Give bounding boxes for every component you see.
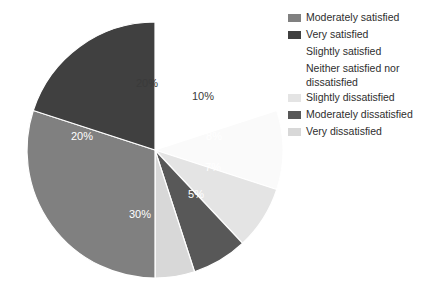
chart-legend: Moderately satisfied Very satisfied Slig… — [288, 11, 437, 142]
pie-slice-data-label: 7% — [205, 161, 221, 173]
legend-swatch-icon — [288, 111, 301, 119]
legend-item[interactable]: Slightly dissatisfied — [288, 91, 437, 106]
legend-item-label: Moderately satisfied — [306, 11, 437, 25]
legend-item-label: Neither satisfied nor dissatisfied — [306, 62, 437, 89]
pie-chart-plot-area: 20%10%8%7%5%30%20% — [0, 0, 300, 295]
legend-swatch-icon — [288, 94, 301, 102]
legend-item-label: Very dissatisfied — [306, 125, 437, 139]
pie-slice-data-label: 20% — [71, 130, 93, 142]
pie-slice-data-label: 10% — [192, 90, 214, 102]
legend-item[interactable]: Very satisfied — [288, 28, 437, 43]
legend-item[interactable]: Moderately satisfied — [288, 11, 437, 26]
pie-slice-data-label: 20% — [136, 77, 158, 89]
legend-swatch-icon — [288, 48, 301, 56]
pie-slice-data-label: 30% — [129, 208, 151, 220]
legend-item-label: Moderately dissatisfied — [306, 108, 437, 122]
legend-item-label: Slightly satisfied — [306, 45, 437, 59]
pie-slices-group — [27, 22, 283, 278]
legend-item-label: Very satisfied — [306, 28, 437, 42]
legend-item[interactable]: Neither satisfied nor dissatisfied — [288, 62, 437, 89]
legend-item-label: Slightly dissatisfied — [306, 91, 437, 105]
legend-item[interactable]: Slightly satisfied — [288, 45, 437, 60]
legend-swatch-icon — [288, 128, 301, 136]
legend-item[interactable]: Moderately dissatisfied — [288, 108, 437, 123]
legend-swatch-icon — [288, 14, 301, 22]
legend-swatch-icon — [288, 65, 301, 73]
legend-swatch-icon — [288, 31, 301, 39]
pie-chart-figure: 20%10%8%7%5%30%20% Moderately satisfied … — [0, 0, 437, 295]
legend-item[interactable]: Very dissatisfied — [288, 125, 437, 140]
pie-chart-svg: 20%10%8%7%5%30%20% — [0, 0, 300, 295]
pie-slice-data-label: 5% — [188, 188, 204, 200]
pie-slice-data-label: 8% — [206, 130, 222, 142]
